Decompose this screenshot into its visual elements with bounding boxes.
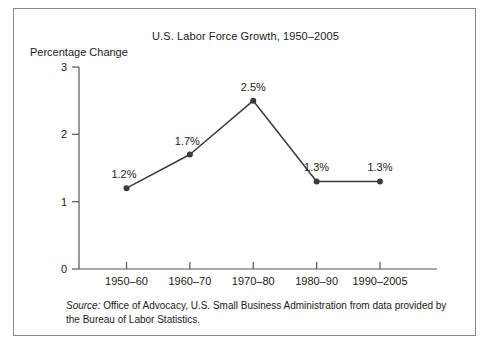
x-tick-label: 1960–70 [168,275,211,287]
data-point-marker [377,178,383,184]
data-point-label: 1.3% [304,161,329,173]
data-point-marker [187,152,193,158]
y-axis-ticks: 0123 [61,61,79,275]
figure-frame: U.S. Labor Force Growth, 1950–2005 Perce… [13,8,476,336]
source-label: Source: [66,300,100,311]
source-note: Source: Office of Advocacy, U.S. Small B… [66,299,458,327]
data-point-labels: 1.2%1.7%2.5%1.3%1.3% [111,81,392,181]
x-axis-ticks: 1950–601960–701970–801980–901990–2005 [105,262,407,287]
source-text: Office of Advocacy, U.S. Small Business … [66,300,446,325]
y-tick-label: 3 [61,61,67,73]
y-tick-label: 2 [61,128,67,140]
x-tick-label: 1970–80 [232,275,275,287]
data-point-marker [250,98,256,104]
data-point-label: 1.3% [367,161,392,173]
data-point-label: 2.5% [241,81,266,93]
figure-root: U.S. Labor Force Growth, 1950–2005 Perce… [0,0,488,344]
data-point-marker [314,178,320,184]
y-tick-label: 0 [61,263,67,275]
x-tick-label: 1980–90 [295,275,338,287]
data-point-label: 1.7% [175,135,200,147]
data-point-markers [124,98,383,192]
data-point-label: 1.2% [111,168,136,180]
data-point-marker [124,185,130,191]
x-tick-label: 1990–2005 [352,275,407,287]
series-line [127,101,380,189]
data-series-line [127,101,380,189]
line-chart-plot: 0123 1950–601960–701970–801980–901990–20… [14,9,477,337]
x-tick-label: 1950–60 [105,275,148,287]
y-tick-label: 1 [61,196,67,208]
